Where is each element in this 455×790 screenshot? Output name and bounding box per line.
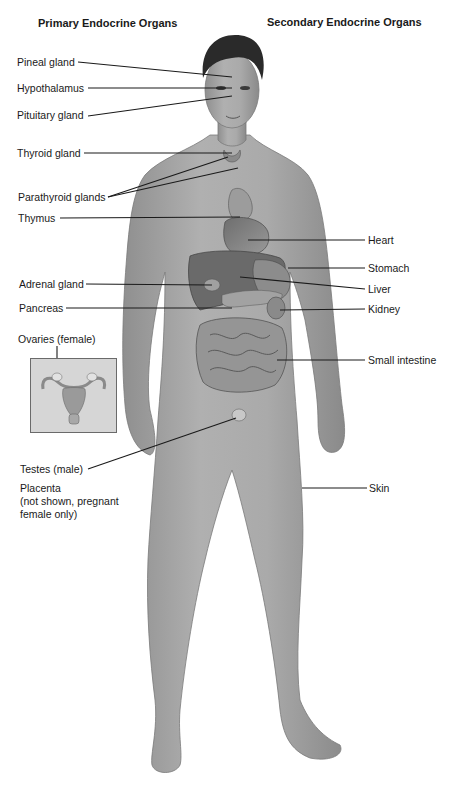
label-placenta-note-2: female only) bbox=[20, 508, 77, 521]
label-placenta: Placenta bbox=[20, 482, 61, 495]
label-heart: Heart bbox=[368, 234, 394, 247]
ovary-right bbox=[87, 373, 97, 381]
label-skin: Skin bbox=[369, 482, 389, 495]
label-testes: Testes (male) bbox=[20, 463, 83, 476]
label-small-intestine: Small intestine bbox=[368, 354, 436, 367]
kidney-organ bbox=[267, 297, 285, 319]
uterus-illustration bbox=[31, 359, 116, 432]
label-pancreas: Pancreas bbox=[19, 302, 63, 315]
label-thyroid-gland: Thyroid gland bbox=[17, 147, 81, 160]
label-ovaries: Ovaries (female) bbox=[18, 333, 96, 346]
label-pineal-gland: Pineal gland bbox=[17, 56, 75, 69]
label-liver: Liver bbox=[368, 283, 391, 296]
label-pituitary-gland: Pituitary gland bbox=[17, 109, 84, 122]
label-kidney: Kidney bbox=[368, 303, 400, 316]
label-hypothalamus: Hypothalamus bbox=[17, 82, 84, 95]
label-thymus: Thymus bbox=[18, 212, 55, 225]
label-placenta-note-1: (not shown, pregnant bbox=[20, 495, 119, 508]
label-parathyroid-glands: Parathyroid glands bbox=[18, 191, 106, 204]
ovary-left bbox=[52, 373, 62, 381]
small-intestine-organ bbox=[196, 318, 287, 392]
label-adrenal-gland: Adrenal gland bbox=[19, 278, 84, 291]
ovaries-inset bbox=[30, 358, 117, 433]
label-stomach: Stomach bbox=[368, 262, 409, 275]
